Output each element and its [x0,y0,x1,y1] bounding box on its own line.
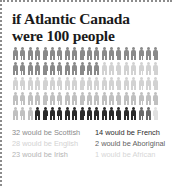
person-icon [94,77,99,90]
person-icon [57,107,62,120]
person-icon [35,47,40,60]
person-icon [43,77,48,90]
person-icon [43,107,48,120]
legend-item-1: 2 would be Aboriginal [95,138,172,149]
person-icon [13,47,18,60]
person-icon [139,47,144,60]
person-icon [28,77,33,90]
person-icon [28,62,33,75]
legend-item-0: 14 would be French [95,127,172,138]
person-icon [43,92,48,105]
person-icon [72,77,77,90]
person-icon [28,107,33,120]
person-icon [139,77,144,90]
person-icon [131,107,136,120]
person-icon [87,77,92,90]
person-icon [57,77,62,90]
person-icon [109,77,114,90]
person-icon [43,47,48,60]
person-icon [124,62,129,75]
person-icon [102,107,107,120]
legend-item-2: 23 would be Irish [12,149,89,160]
person-icon [153,92,158,105]
person-icon [94,47,99,60]
person-icon [146,92,151,105]
person-icon [153,47,158,60]
person-icon [146,62,151,75]
person-icon [13,62,18,75]
person-icon [146,77,151,90]
person-icon [116,77,121,90]
person-icon [102,92,107,105]
person-icon [80,62,85,75]
person-icon [13,77,18,90]
person-icon [131,62,136,75]
people-row [13,62,172,77]
person-icon [116,92,121,105]
person-icon [116,62,121,75]
person-icon [20,92,25,105]
person-icon [116,107,121,120]
person-icon [35,107,40,120]
person-icon [72,62,77,75]
person-icon [65,77,70,90]
person-icon [87,92,92,105]
person-icon [124,92,129,105]
infographic-panel: if Atlantic Canada were 100 people 32 wo… [0,0,172,186]
person-icon [131,92,136,105]
person-icon [109,92,114,105]
pictogram-chart [2,47,172,122]
person-icon [109,107,114,120]
page-title-line-1: if Atlantic Canada [12,11,164,28]
person-icon [43,62,48,75]
legend-item-0: 32 would be Scottish [12,127,89,138]
title-block: if Atlantic Canada were 100 people [2,2,172,44]
person-icon [50,107,55,120]
person-icon [20,77,25,90]
person-icon [124,77,129,90]
person-icon [20,47,25,60]
person-icon [50,47,55,60]
person-icon [146,47,151,60]
person-icon [65,47,70,60]
person-icon [153,62,158,75]
person-icon [28,92,33,105]
people-row [13,47,172,62]
person-icon [35,92,40,105]
person-icon [116,47,121,60]
legend-item-2: 1 would be African [95,149,172,160]
person-icon [146,107,151,120]
person-icon [57,92,62,105]
person-icon [72,47,77,60]
person-icon [20,107,25,120]
legend-column-right: 14 would be French2 would be Aboriginal1… [95,127,172,161]
person-icon [50,62,55,75]
person-icon [57,47,62,60]
person-icon [153,77,158,90]
legend: 32 would be Scottish28 would be English2… [2,127,172,161]
person-icon [13,107,18,120]
person-icon [131,47,136,60]
person-icon [57,62,62,75]
person-icon [80,107,85,120]
person-icon [87,107,92,120]
person-icon [87,47,92,60]
people-row [13,107,172,122]
people-row [13,77,172,92]
person-icon [131,77,136,90]
person-icon [72,107,77,120]
person-icon [139,62,144,75]
person-icon [65,107,70,120]
person-icon [50,92,55,105]
person-icon [13,92,18,105]
person-icon [102,47,107,60]
person-icon [94,107,99,120]
person-icon [102,77,107,90]
person-icon [65,62,70,75]
person-icon [94,92,99,105]
person-icon [35,62,40,75]
person-icon [20,62,25,75]
person-icon [80,92,85,105]
person-icon [28,47,33,60]
person-icon [124,107,129,120]
